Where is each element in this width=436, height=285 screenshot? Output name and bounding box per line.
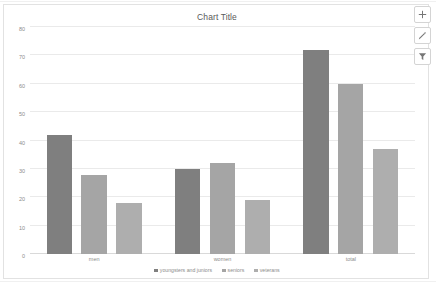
plus-icon (418, 10, 427, 19)
bar[interactable] (210, 163, 235, 254)
chart-object[interactable]: Chart Title 01020304050607080 menwomento… (3, 4, 429, 279)
bar[interactable] (47, 135, 72, 254)
bar[interactable] (373, 149, 398, 254)
plot-area[interactable] (30, 27, 415, 254)
chart-elements-button[interactable] (414, 6, 431, 23)
x-axis-category-label: total (346, 256, 356, 262)
bar-group (175, 27, 270, 254)
bar[interactable] (116, 203, 141, 254)
bar[interactable] (245, 200, 270, 254)
legend-item[interactable]: veterans (254, 268, 279, 273)
legend-swatch (154, 269, 158, 273)
y-axis-tick-labels: 01020304050607080 (4, 27, 28, 254)
bar-group (303, 27, 398, 254)
legend-swatch (222, 269, 226, 273)
document-rule-bottom (0, 281, 436, 282)
x-axis-category-label: men (89, 256, 100, 262)
legend-label: veterans (260, 268, 280, 273)
bar[interactable] (175, 169, 200, 254)
chart-title[interactable]: Chart Title (4, 12, 430, 22)
chart-styles-button[interactable] (414, 27, 431, 44)
screenshot-root: Chart Title 01020304050607080 menwomento… (0, 0, 436, 285)
bar[interactable] (338, 84, 363, 254)
brush-icon (418, 31, 427, 40)
chart-legend[interactable]: youngsters and juniorsseniorsveterans (4, 268, 430, 273)
legend-label: youngsters and juniors (160, 268, 212, 273)
bar[interactable] (81, 175, 106, 254)
x-axis-category-labels: menwomentotal (30, 256, 415, 266)
legend-item[interactable]: youngsters and juniors (154, 268, 212, 273)
funnel-icon (418, 52, 427, 61)
bar[interactable] (303, 50, 328, 254)
chart-filters-button[interactable] (414, 48, 431, 65)
legend-item[interactable]: seniors (222, 268, 244, 273)
document-rule-top (0, 1, 436, 2)
legend-label: seniors (228, 268, 245, 273)
bars-layer (30, 27, 415, 254)
bar-group (47, 27, 142, 254)
legend-swatch (254, 269, 258, 273)
x-axis-category-label: women (214, 256, 232, 262)
chart-side-toolbar (414, 6, 431, 65)
